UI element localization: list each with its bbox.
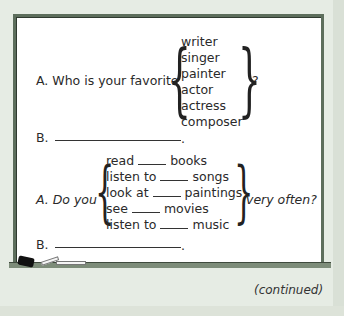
q2-answer-period: . [181, 238, 185, 254]
q1-answer-period: . [181, 131, 185, 147]
q1-question-a: A. Who is your favorite [36, 73, 179, 89]
q2-suffix: very often? [246, 192, 317, 208]
option-row: listen to music [106, 217, 242, 233]
chalk-icon [56, 261, 86, 265]
continued-label: (continued) [254, 283, 323, 297]
q2-options: read books listen to songs look at paint… [106, 153, 242, 233]
page-edge-bottom [0, 306, 344, 316]
option-row: see movies [106, 201, 242, 217]
option-actress: actress [181, 98, 243, 114]
option-writer: writer [181, 34, 243, 50]
option-actor: actor [181, 82, 243, 98]
q1-answer-blank[interactable] [55, 140, 181, 141]
q2-answer-blank[interactable] [55, 247, 181, 248]
q1-answer-label: B. [36, 130, 49, 146]
option-composer: composer [181, 114, 243, 130]
q2-answer-label: B. [36, 237, 49, 253]
option-row: look at paintings [106, 185, 242, 201]
option-painter: painter [181, 66, 243, 82]
page-edge-right [333, 0, 344, 316]
q1-question-mark: ? [252, 73, 259, 89]
option-row: listen to songs [106, 169, 242, 185]
q1-options: writer singer painter actor actress comp… [181, 34, 243, 130]
option-row: read books [106, 153, 242, 169]
q2-question-a: A. Do you [36, 192, 97, 208]
option-singer: singer [181, 50, 243, 66]
